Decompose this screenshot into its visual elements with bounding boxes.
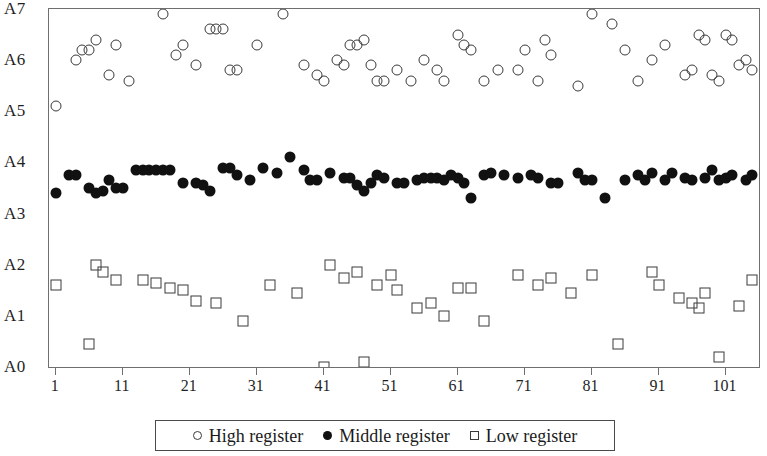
data-point-low-register — [211, 298, 222, 309]
y-axis-tick-label: A2 — [4, 255, 48, 272]
data-point-high-register — [84, 44, 95, 55]
data-point-low-register — [372, 280, 383, 291]
data-point-high-register — [90, 34, 101, 45]
data-point-high-register — [512, 65, 523, 76]
data-point-middle-register — [553, 177, 564, 188]
data-point-high-register — [392, 65, 403, 76]
data-point-high-register — [50, 101, 61, 112]
data-point-middle-register — [599, 193, 610, 204]
data-point-high-register — [104, 70, 115, 81]
data-point-middle-register — [399, 177, 410, 188]
data-point-low-register — [653, 280, 664, 291]
data-point-middle-register — [620, 175, 631, 186]
x-axis-tick-label: 1 — [51, 378, 59, 394]
data-point-middle-register — [285, 152, 296, 163]
legend-label-low-register: Low register — [486, 427, 577, 445]
x-axis-tick — [390, 368, 391, 375]
data-point-high-register — [620, 44, 631, 55]
data-point-low-register — [385, 269, 396, 280]
y-axis-tick-label: A5 — [4, 102, 48, 119]
data-point-low-register — [713, 351, 724, 362]
x-axis-tick — [189, 368, 190, 375]
data-point-low-register — [110, 275, 121, 286]
data-point-middle-register — [117, 183, 128, 194]
data-point-high-register — [177, 39, 188, 50]
data-point-high-register — [191, 60, 202, 71]
data-point-low-register — [646, 267, 657, 278]
data-point-high-register — [419, 55, 430, 66]
data-point-high-register — [479, 75, 490, 86]
data-point-low-register — [412, 303, 423, 314]
data-point-low-register — [546, 272, 557, 283]
data-point-high-register — [70, 55, 81, 66]
data-point-middle-register — [586, 175, 597, 186]
data-point-low-register — [50, 280, 61, 291]
data-point-high-register — [586, 9, 597, 20]
data-point-high-register — [218, 24, 229, 35]
x-axis-tick — [256, 368, 257, 375]
x-axis-tick-label: 31 — [248, 378, 264, 394]
data-point-low-register — [747, 275, 758, 286]
open-circle-marker-icon — [193, 431, 202, 440]
data-point-high-register — [365, 60, 376, 71]
data-point-high-register — [439, 75, 450, 86]
y-axis-tick-label: A3 — [4, 204, 48, 221]
x-axis-tick — [591, 368, 592, 375]
data-point-low-register — [265, 280, 276, 291]
data-point-low-register — [191, 295, 202, 306]
x-axis-tick-label: 61 — [449, 378, 465, 394]
data-point-high-register — [700, 34, 711, 45]
data-point-middle-register — [646, 167, 657, 178]
data-point-middle-register — [231, 170, 242, 181]
x-axis-tick — [524, 368, 525, 375]
data-point-middle-register — [97, 185, 108, 196]
open-square-marker-icon — [470, 431, 479, 440]
data-point-middle-register — [465, 193, 476, 204]
data-point-low-register — [693, 303, 704, 314]
y-axis: A0A1A2A3A4A5A6A7 — [0, 0, 48, 376]
data-point-high-register — [278, 9, 289, 20]
y-axis-tick-label: A6 — [4, 51, 48, 68]
data-point-high-register — [231, 65, 242, 76]
x-axis-tick-label: 91 — [650, 378, 666, 394]
data-point-high-register — [606, 19, 617, 30]
data-point-high-register — [519, 44, 530, 55]
data-point-low-register — [700, 287, 711, 298]
data-point-middle-register — [499, 170, 510, 181]
data-point-middle-register — [687, 175, 698, 186]
x-axis-tick — [55, 368, 56, 375]
data-point-low-register — [512, 269, 523, 280]
data-point-high-register — [124, 75, 135, 86]
data-point-middle-register — [747, 170, 758, 181]
data-point-middle-register — [204, 185, 215, 196]
data-point-high-register — [465, 44, 476, 55]
data-point-low-register — [164, 282, 175, 293]
data-point-low-register — [97, 267, 108, 278]
x-axis-tick — [658, 368, 659, 375]
data-point-low-register — [673, 292, 684, 303]
x-axis-tick-label: 101 — [713, 378, 737, 394]
data-point-low-register — [238, 315, 249, 326]
data-point-middle-register — [164, 165, 175, 176]
data-point-high-register — [452, 29, 463, 40]
data-point-low-register — [325, 259, 336, 270]
y-axis-tick-label: A1 — [4, 306, 48, 323]
x-axis-tick-label: 21 — [181, 378, 197, 394]
data-point-middle-register — [70, 170, 81, 181]
x-axis-tick-label: 51 — [382, 378, 398, 394]
data-point-low-register — [479, 315, 490, 326]
data-point-high-register — [378, 75, 389, 86]
data-point-middle-register — [512, 172, 523, 183]
data-point-low-register — [177, 285, 188, 296]
data-point-low-register — [137, 275, 148, 286]
data-point-low-register — [352, 267, 363, 278]
data-point-low-register — [392, 285, 403, 296]
data-point-high-register — [171, 50, 182, 61]
data-point-middle-register — [459, 177, 470, 188]
data-point-middle-register — [727, 170, 738, 181]
data-point-high-register — [747, 65, 758, 76]
plot-area — [49, 9, 759, 367]
data-point-low-register — [532, 280, 543, 291]
data-point-high-register — [405, 75, 416, 86]
data-point-high-register — [251, 39, 262, 50]
